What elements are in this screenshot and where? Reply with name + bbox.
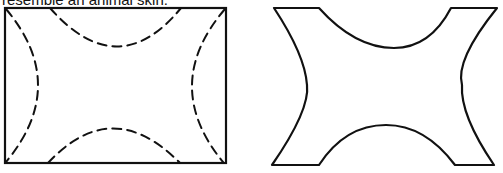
skin-outline <box>272 8 497 165</box>
right-dashed-arc <box>192 9 225 162</box>
left-dashed-arc <box>6 9 38 162</box>
rectangle-with-dashed-cut-lines <box>5 8 226 163</box>
bottom-dashed-arc <box>48 129 180 164</box>
diagram-canvas <box>0 0 503 173</box>
top-dashed-arc <box>50 8 181 47</box>
animal-skin-shape <box>272 8 497 165</box>
